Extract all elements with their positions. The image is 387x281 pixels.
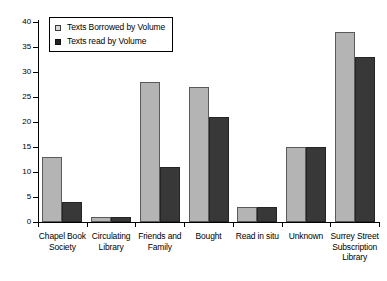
bar-read	[355, 57, 375, 222]
bar-read	[160, 167, 180, 222]
bar-borrowed	[286, 147, 306, 222]
legend-swatch-icon-borrowed	[55, 25, 61, 31]
legend-item-read: Texts read by Volume	[55, 36, 165, 47]
bar-read	[209, 117, 229, 222]
y-axis-tick-label: 30	[1, 68, 31, 76]
y-axis-tick-label: 20	[1, 118, 31, 126]
y-axis-tick-label: 10	[1, 168, 31, 176]
legend-label-borrowed: Texts Borrowed by Volume	[67, 23, 165, 32]
x-axis-tick	[233, 222, 234, 227]
x-axis-category-label: Surrey Street Subscription Library	[324, 231, 385, 263]
bar-read	[111, 217, 131, 222]
legend-label-read: Texts read by Volume	[67, 37, 146, 46]
x-axis-tick	[330, 222, 331, 227]
plot-area	[38, 22, 379, 222]
x-axis-tick	[38, 222, 39, 227]
bar-read	[306, 147, 326, 222]
bar-borrowed	[335, 32, 355, 222]
y-axis-tick-label: 0	[1, 218, 31, 226]
x-axis-line	[38, 222, 379, 223]
y-axis-tick-label: 15	[1, 143, 31, 151]
chart-legend: Texts Borrowed by Volume Texts read by V…	[49, 17, 173, 52]
bar-borrowed	[140, 82, 160, 222]
legend-swatch-icon-read	[55, 39, 61, 45]
bar-borrowed	[91, 217, 111, 222]
bar-borrowed	[189, 87, 209, 222]
x-axis-tick	[87, 222, 88, 227]
legend-item-borrowed: Texts Borrowed by Volume	[55, 22, 165, 33]
bar-read	[62, 202, 82, 222]
y-axis-tick-label: 35	[1, 43, 31, 51]
x-axis-tick	[379, 222, 380, 227]
y-axis-tick-label: 5	[1, 193, 31, 201]
x-axis-tick	[184, 222, 185, 227]
y-axis-tick-label: 25	[1, 93, 31, 101]
bar-borrowed	[237, 207, 257, 222]
x-axis-tick	[282, 222, 283, 227]
bar-chart: 0510152025303540 Chapel Book SocietyCirc…	[0, 0, 387, 281]
bar-borrowed	[42, 157, 62, 222]
y-axis-tick-label: 40	[1, 18, 31, 26]
x-axis-tick	[135, 222, 136, 227]
bar-read	[257, 207, 277, 222]
